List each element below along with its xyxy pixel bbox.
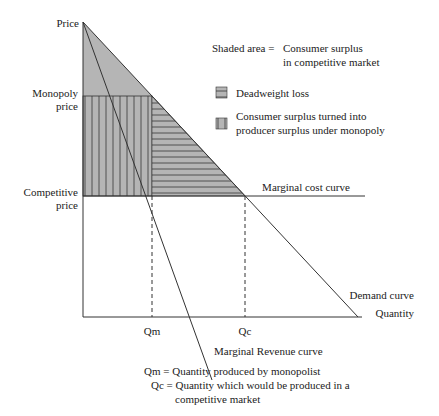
marginal-cost-label: Marginal cost curve xyxy=(262,181,350,193)
competitive-price-label-2: price xyxy=(56,199,78,211)
quantity-axis-label: Quantity xyxy=(376,307,415,319)
marginal-revenue-label: Marginal Revenue curve xyxy=(214,345,323,357)
demand-label: Demand curve xyxy=(350,289,415,301)
transfer-swatch xyxy=(216,118,227,129)
legend-shaded-line1: Consumer surplus xyxy=(283,42,363,54)
legend-transfer-line1: Consumer surplus turned into xyxy=(236,110,367,122)
transfer-area xyxy=(83,96,152,196)
price-axis-label: Price xyxy=(56,17,79,29)
qc-definition-line2: competitive market xyxy=(175,393,260,405)
legend-shaded-prefix: Shaded area = xyxy=(212,42,274,54)
qm-label: Qm xyxy=(144,325,161,337)
legend-deadweight: Deadweight loss xyxy=(236,87,309,99)
competitive-price-label: Competitive xyxy=(24,186,79,198)
monopoly-diagram: Price Quantity Monopoly price Competitiv… xyxy=(0,0,439,416)
legend-shaded-line2: in competitive market xyxy=(283,56,380,68)
qc-label: Qc xyxy=(239,325,252,337)
monopoly-price-label: Monopoly xyxy=(32,87,78,99)
legend-transfer-line2: producer surplus under monopoly xyxy=(236,124,385,136)
qc-definition-line1: Qc = Quantity which would be produced in… xyxy=(151,379,350,391)
monopoly-price-label-2: price xyxy=(56,100,78,112)
deadweight-swatch xyxy=(216,87,227,98)
qm-definition: Qm = Quantity produced by monopolist xyxy=(144,365,320,377)
